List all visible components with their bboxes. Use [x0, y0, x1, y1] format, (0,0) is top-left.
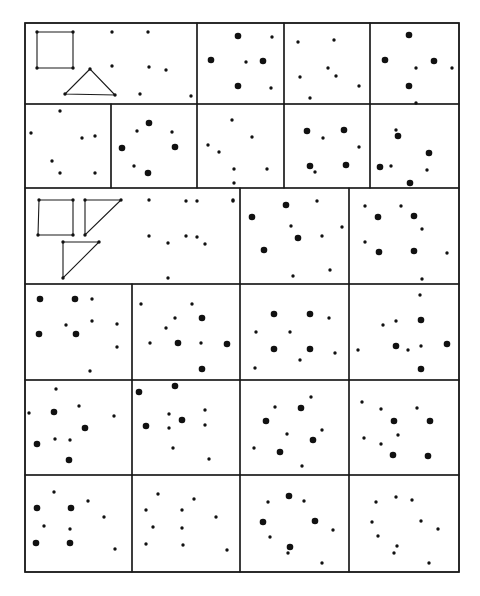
- vertex-dot: [37, 198, 40, 201]
- small-dot: [181, 543, 184, 546]
- small-dot: [286, 551, 289, 554]
- small-dot: [420, 227, 423, 230]
- small-dot: [406, 348, 409, 351]
- large-dot: [286, 493, 293, 500]
- small-dot: [244, 60, 247, 63]
- large-dot: [277, 449, 284, 456]
- small-dot: [414, 101, 417, 104]
- small-dot: [166, 241, 169, 244]
- small-dot: [362, 436, 365, 439]
- large-dot: [307, 163, 314, 170]
- small-dot: [334, 74, 337, 77]
- small-dot: [166, 276, 169, 279]
- large-dot: [287, 544, 294, 551]
- vertex-dot: [61, 240, 64, 243]
- large-dot: [235, 33, 242, 40]
- small-dot: [115, 322, 118, 325]
- small-dot: [298, 75, 301, 78]
- large-dot: [82, 425, 89, 432]
- small-dot: [144, 508, 147, 511]
- vertex-dot: [88, 67, 91, 70]
- small-dot: [203, 423, 206, 426]
- small-dot: [320, 428, 323, 431]
- large-dot: [382, 57, 389, 64]
- large-dot: [407, 180, 414, 187]
- large-dot: [249, 214, 256, 221]
- small-dot: [102, 515, 105, 518]
- large-dot: [444, 341, 451, 348]
- small-dot: [207, 457, 210, 460]
- large-dot: [37, 296, 44, 303]
- small-dot: [64, 323, 67, 326]
- large-dot: [426, 150, 433, 157]
- large-dot: [341, 127, 348, 134]
- large-dot: [390, 452, 397, 459]
- large-dot: [307, 311, 314, 318]
- small-dot: [203, 242, 206, 245]
- large-dot: [179, 417, 186, 424]
- vertex-dot: [83, 233, 86, 236]
- small-dot: [394, 495, 397, 498]
- small-dot: [333, 351, 336, 354]
- vertex-dot: [71, 233, 74, 236]
- small-dot: [266, 500, 269, 503]
- vertex-dot: [36, 233, 39, 236]
- small-dot: [414, 66, 417, 69]
- small-dot: [392, 551, 395, 554]
- large-dot: [406, 83, 413, 90]
- large-dot: [73, 331, 80, 338]
- small-dot: [360, 400, 363, 403]
- small-dot: [298, 358, 301, 361]
- large-dot: [418, 317, 425, 324]
- small-dot: [203, 408, 206, 411]
- small-dot: [389, 164, 392, 167]
- small-dot: [321, 136, 324, 139]
- vertex-dot: [113, 93, 116, 96]
- small-dot: [151, 525, 154, 528]
- small-dot: [420, 277, 423, 280]
- large-dot: [427, 418, 434, 425]
- small-dot: [436, 527, 439, 530]
- small-dot: [427, 561, 430, 564]
- large-dot: [391, 418, 398, 425]
- small-dot: [164, 68, 167, 71]
- small-dot: [58, 171, 61, 174]
- small-dot: [253, 366, 256, 369]
- small-dot: [302, 499, 305, 502]
- small-dot: [269, 86, 272, 89]
- large-dot: [66, 457, 73, 464]
- small-dot: [379, 407, 382, 410]
- large-dot: [395, 133, 402, 140]
- large-dot: [34, 505, 41, 512]
- large-dot: [145, 170, 152, 177]
- small-dot: [300, 464, 303, 467]
- large-dot: [376, 249, 383, 256]
- small-dot: [273, 405, 276, 408]
- small-dot: [374, 500, 377, 503]
- small-dot: [147, 198, 150, 201]
- small-dot: [394, 319, 397, 322]
- small-dot: [93, 134, 96, 137]
- small-dot: [189, 94, 192, 97]
- large-dot: [307, 346, 314, 353]
- large-dot: [411, 213, 418, 220]
- small-dot: [190, 302, 193, 305]
- small-dot: [363, 240, 366, 243]
- small-dot: [419, 344, 422, 347]
- small-dot: [232, 181, 235, 184]
- small-dot: [139, 302, 142, 305]
- large-dot: [271, 311, 278, 318]
- small-dot: [90, 319, 93, 322]
- small-dot: [167, 426, 170, 429]
- large-dot: [34, 441, 41, 448]
- small-dot: [309, 395, 312, 398]
- large-dot: [172, 383, 179, 390]
- small-dot: [289, 224, 292, 227]
- small-dot: [288, 330, 291, 333]
- large-dot: [146, 120, 153, 127]
- large-dot: [283, 202, 290, 209]
- small-dot: [232, 167, 235, 170]
- small-dot: [230, 118, 233, 121]
- small-dot: [225, 548, 228, 551]
- large-dot: [36, 331, 43, 338]
